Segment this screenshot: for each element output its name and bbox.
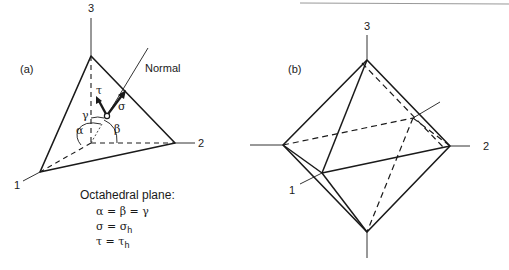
sigma-label: σ bbox=[118, 101, 126, 112]
stress-point bbox=[104, 113, 109, 118]
b-hidden-edge-left-back bbox=[283, 118, 413, 145]
b-edge-left-front bbox=[283, 145, 322, 173]
caption-eq-tau-sub: h bbox=[124, 240, 129, 250]
caption-eq-tau: τ = τh bbox=[96, 234, 175, 249]
panel-b-octahedron bbox=[250, 35, 470, 258]
b-axis-2-label: 2 bbox=[483, 141, 489, 152]
axis-1-line bbox=[23, 172, 40, 181]
panel-a-tetrahedron bbox=[23, 18, 195, 181]
axis-3-label: 3 bbox=[88, 3, 94, 14]
gamma-label: γ bbox=[82, 110, 89, 121]
axis-1-label: 1 bbox=[14, 180, 20, 191]
b-hidden-edge-back-bottom bbox=[367, 118, 413, 232]
panel-b-label: (b) bbox=[288, 64, 301, 75]
b-axis-3-label: 3 bbox=[364, 21, 370, 32]
gamma-arc bbox=[91, 117, 104, 118]
b-outline bbox=[283, 60, 450, 232]
caption-eq-angles: α = β = γ bbox=[96, 204, 175, 219]
panel-a-label: (a) bbox=[20, 64, 33, 75]
origin-to-point bbox=[91, 124, 102, 143]
caption-eq-sigma-text: σ = σ bbox=[96, 220, 127, 233]
b-axis-1-label: 1 bbox=[289, 185, 295, 196]
octahedral-plane-caption: Octahedral plane: α = β = γ σ = σh τ = τ… bbox=[96, 188, 175, 249]
b-edge-front-right bbox=[322, 146, 450, 173]
caption-title: Octahedral plane: bbox=[80, 188, 175, 203]
beta-label: β bbox=[114, 124, 120, 135]
top-rule bbox=[300, 3, 509, 4]
b-edge-front-bottom bbox=[322, 173, 367, 232]
tau-label: τ bbox=[96, 85, 102, 96]
caption-eq-sigma: σ = σh bbox=[96, 219, 175, 234]
tau-vector bbox=[99, 101, 106, 114]
octahedral-plane-figure: (a) 3 2 1 Normal τ σ γ α β Octahedral pl… bbox=[0, 0, 509, 270]
normal-label: Normal bbox=[145, 63, 180, 74]
axis-2-label: 2 bbox=[198, 138, 204, 149]
hidden-edge-axis1 bbox=[40, 143, 91, 172]
alpha-label: α bbox=[76, 125, 83, 136]
b-edge-top-front bbox=[322, 60, 367, 173]
caption-eq-tau-text: τ = τ bbox=[96, 235, 124, 248]
b-axis-1-back-line bbox=[413, 102, 440, 118]
